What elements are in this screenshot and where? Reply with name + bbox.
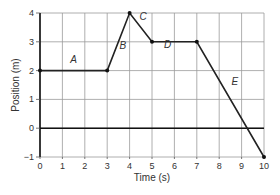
x-tick-label: 5 [149, 161, 154, 171]
data-point [262, 155, 266, 159]
grid [40, 13, 264, 157]
x-tick-label: 1 [60, 161, 65, 171]
x-tick-label: 0 [37, 161, 42, 171]
tick-labels: 012345678910−101234 [24, 8, 269, 171]
segment-label-b: B [120, 40, 127, 51]
x-tick-label: 4 [127, 161, 132, 171]
y-tick-label: −1 [24, 152, 34, 162]
y-tick-label: 2 [29, 66, 34, 76]
x-tick-label: 10 [259, 161, 269, 171]
x-tick-label: 6 [172, 161, 177, 171]
y-axis-label: Position (m) [10, 58, 21, 111]
segment-labels: ABCDE [69, 11, 238, 87]
data-point [38, 69, 42, 73]
data-point [128, 11, 132, 15]
data-point [105, 69, 109, 73]
data-point [150, 40, 154, 44]
segment-label-a: A [69, 54, 77, 65]
x-tick-label: 2 [82, 161, 87, 171]
segment-label-c: C [139, 11, 147, 22]
y-tick-label: 4 [29, 8, 34, 18]
y-tick-label: 3 [29, 37, 34, 47]
segment-label-d: D [164, 39, 171, 50]
segment-label-e: E [232, 76, 239, 87]
x-tick-label: 7 [194, 161, 199, 171]
data-point [195, 40, 199, 44]
y-tick-label: 1 [29, 94, 34, 104]
y-tick-label: 0 [29, 123, 34, 133]
x-axis-label: Time (s) [134, 172, 170, 183]
x-tick-label: 8 [217, 161, 222, 171]
position-time-chart: 012345678910−101234 ABCDE Time (s) Posit… [0, 0, 280, 195]
x-tick-label: 9 [239, 161, 244, 171]
x-tick-label: 3 [105, 161, 110, 171]
